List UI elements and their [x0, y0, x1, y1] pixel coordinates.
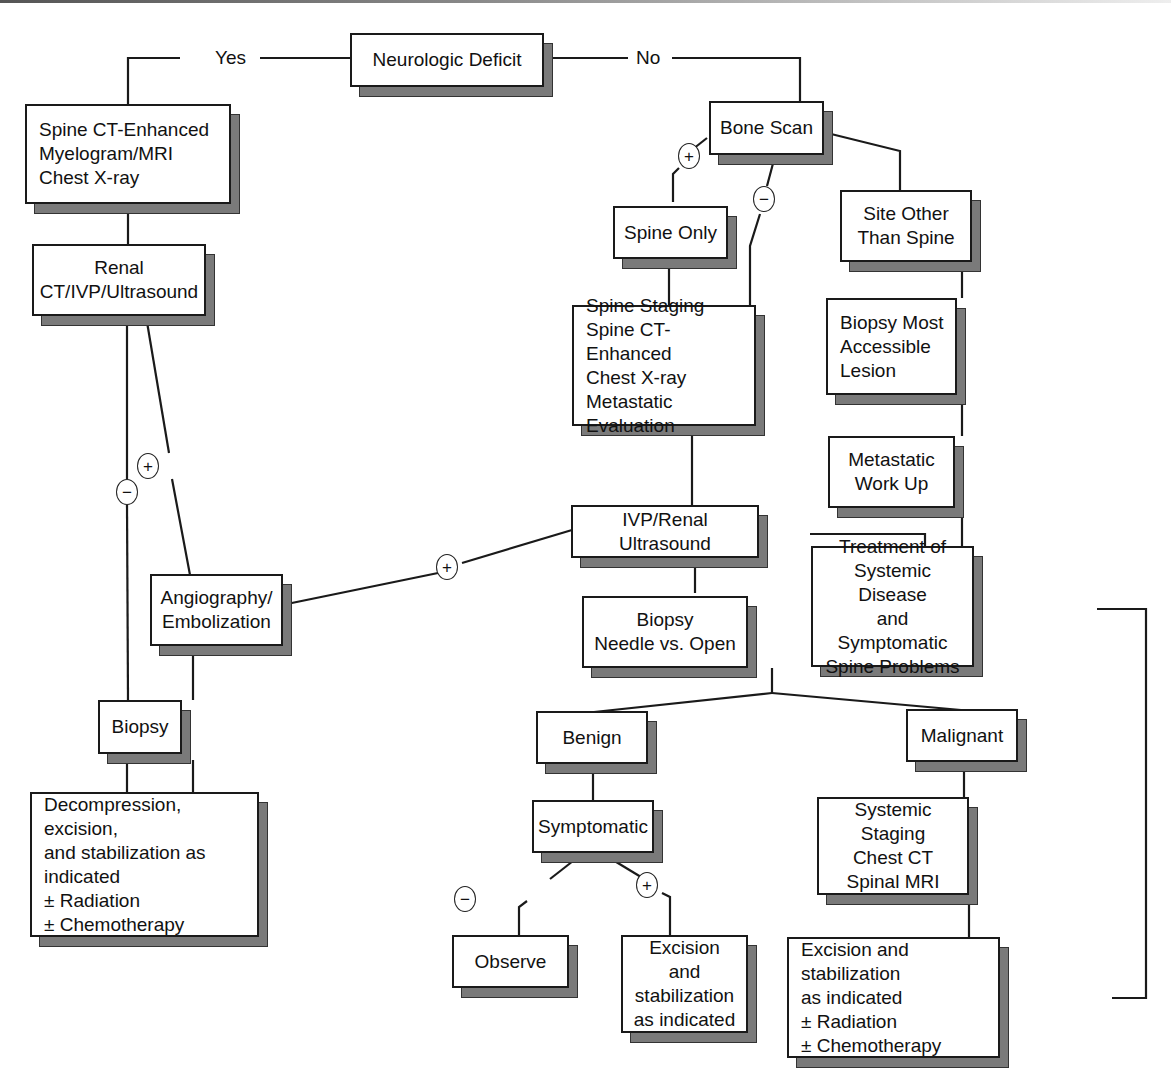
edge-plus-spineonly — [673, 168, 679, 202]
edge-minus-observe — [519, 901, 527, 935]
edge-treatment-excision — [1097, 609, 1146, 998]
edge-minus-staging — [750, 214, 760, 305]
edge-plus-ivp — [462, 530, 572, 563]
node-spine-ct-enhanced: Spine CT-Enhanced Myelogram/MRI Chest X-… — [25, 104, 231, 204]
plus-sign-icon: + — [636, 872, 658, 898]
edge-minus-biopsy — [127, 505, 128, 700]
node-systemic-staging: Systemic Staging Chest CT Spinal MRI — [817, 797, 969, 895]
edge-yes-down — [128, 58, 180, 104]
node-malignant: Malignant — [906, 709, 1018, 762]
edge-no-down — [672, 58, 800, 102]
edge-needle-malignant — [772, 693, 961, 710]
plus-sign-icon: + — [436, 554, 458, 580]
node-biopsy-accessible: Biopsy Most Accessible Lesion — [826, 298, 957, 395]
minus-sign-icon: − — [116, 479, 138, 505]
node-symptomatic: Symptomatic — [532, 800, 654, 853]
node-benign: Benign — [536, 711, 648, 764]
node-biopsy-left: Biopsy — [98, 700, 182, 754]
node-excision-malignant: Excision and stabilization as indicated … — [787, 937, 1000, 1058]
node-spine-staging: Spine Staging Spine CT-Enhanced Chest X-… — [572, 305, 756, 426]
edge-plus-angio — [172, 479, 190, 575]
node-site-other-than-spine: Site Other Than Spine — [840, 190, 972, 262]
edge-renal-plus — [146, 316, 169, 453]
minus-sign-icon: − — [454, 886, 476, 912]
node-treatment-systemic: Treatment of Systemic Disease and Sympto… — [811, 546, 974, 667]
node-neurologic-deficit: Neurologic Deficit — [350, 33, 544, 87]
node-ivp-renal-ultrasound: IVP/Renal Ultrasound — [571, 505, 759, 558]
edge-angio-plus — [282, 573, 438, 605]
node-renal-ct: Renal CT/IVP/Ultrasound — [32, 244, 206, 316]
edge-needle-benign — [594, 693, 772, 712]
node-angiography: Angiography/ Embolization — [150, 574, 283, 646]
node-decompression: Decompression, excision, and stabilizati… — [30, 792, 259, 937]
plus-sign-icon: + — [137, 453, 159, 479]
minus-sign-icon: − — [753, 186, 775, 212]
node-observe: Observe — [452, 935, 569, 988]
node-biopsy-needle: Biopsy Needle vs. Open — [582, 596, 748, 668]
node-spine-only: Spine Only — [613, 206, 728, 259]
edge-plus-excision — [662, 893, 670, 935]
edge-label-yes: Yes — [207, 47, 254, 69]
node-metastatic-workup: Metastatic Work Up — [828, 436, 955, 508]
edge-label-no: No — [628, 47, 668, 69]
node-bone-scan: Bone Scan — [709, 101, 824, 155]
node-excision-benign: Excision and stabilization as indicated — [621, 935, 748, 1033]
plus-sign-icon: + — [678, 143, 700, 169]
edge-bone-site — [823, 132, 900, 190]
